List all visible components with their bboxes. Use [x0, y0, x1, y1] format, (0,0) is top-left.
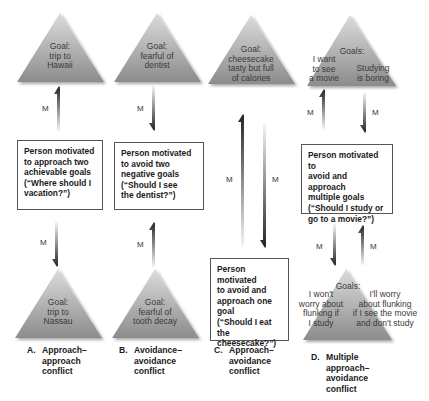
- box-line: vacation?”): [24, 188, 96, 199]
- arrow-down-icon: [149, 86, 155, 131]
- caption-c: C. Approach– avoidance conflict: [214, 345, 294, 385]
- caption-letter: C.: [214, 345, 223, 356]
- motivation-label: M: [226, 175, 233, 184]
- goal-text: and don't study: [346, 319, 424, 329]
- goal-text: Hawaii: [36, 61, 84, 71]
- arrow-down-icon: [360, 93, 366, 133]
- motivation-label: M: [272, 175, 279, 184]
- goal-text: tooth decay: [125, 317, 185, 327]
- goal-triangle-flunking: Goals: I won't worry about flunking if I…: [302, 268, 396, 342]
- caption-line: avoidance: [229, 356, 274, 367]
- box-line: to approach two: [24, 157, 96, 168]
- caption-line: Avoidance–: [134, 345, 182, 356]
- box-line: approach one: [217, 296, 282, 307]
- motivation-label: M: [370, 242, 377, 251]
- conflict-description-box-a: Person motivated to approach two achieva…: [17, 140, 103, 210]
- goal-text: dentist: [131, 61, 183, 71]
- caption-letter: D.: [311, 352, 320, 363]
- caption-line: Multiple: [326, 352, 369, 363]
- caption-d: D. Multiple approach– avoidance conflict: [311, 352, 391, 400]
- box-line: (“Should I study or: [308, 203, 386, 214]
- goal-triangle-dentist: Goal: fearful of dentist: [113, 12, 203, 84]
- motivation-label: M: [316, 242, 323, 251]
- goal-triangle-cheesecake: Goal: cheesecake tasty but full of calor…: [207, 14, 297, 86]
- caption-line: approach: [42, 356, 87, 367]
- goal-text: Nassau: [34, 317, 82, 327]
- arrow-up-icon: [319, 89, 325, 129]
- caption-a: A. Approach– approach conflict: [27, 345, 107, 385]
- caption-b: B. Avoidance– avoidance conflict: [119, 345, 204, 385]
- goal-text: is boring: [350, 74, 396, 84]
- caption-line: Approach–: [42, 345, 87, 356]
- arrow-down-icon: [330, 224, 336, 266]
- goal-triangle-tooth-decay: Goal: fearful of tooth decay: [111, 268, 201, 340]
- arrow-down-icon: [260, 124, 266, 248]
- box-line: Person motivated: [24, 146, 96, 157]
- motivation-label: M: [40, 238, 47, 247]
- goal-triangle-movie-studying: Goals: I want to see a movie Studying is…: [306, 14, 400, 88]
- caption-line: avoidance: [326, 373, 369, 384]
- box-line: go to a movie?”): [308, 214, 386, 225]
- goal-text: a movie: [302, 74, 346, 84]
- box-line: Person motivated to: [308, 150, 386, 171]
- arrow-up-icon: [358, 225, 364, 265]
- motivation-label: M: [372, 108, 379, 117]
- arrow-up-icon: [238, 114, 244, 246]
- motivation-label: M: [42, 104, 49, 113]
- box-line: negative goals: [121, 169, 197, 180]
- arrow-up-icon: [54, 86, 60, 131]
- box-line: to avoid two: [121, 159, 197, 170]
- caption-line: conflict: [42, 366, 87, 377]
- goal-text: I study: [294, 319, 348, 329]
- conflict-description-box-b: Person motivated to avoid two negative g…: [114, 142, 204, 210]
- goal-text: of calories: [217, 74, 285, 84]
- box-line: Person motivated: [121, 148, 197, 159]
- conflict-description-box-c: Person motivated to avoid and approach o…: [210, 258, 289, 341]
- box-line: (“Should I eat the: [217, 317, 282, 338]
- motivation-label: M: [137, 240, 144, 249]
- box-line: (“Should I see: [121, 180, 197, 191]
- conflict-description-box-d: Person motivated to avoid and approach m…: [301, 144, 393, 214]
- caption-line: approach–: [326, 363, 369, 374]
- motivation-label: M: [137, 104, 144, 113]
- goal-triangle-nassau: Goal: trip to Nassau: [14, 268, 104, 340]
- caption-line: conflict: [134, 366, 182, 377]
- caption-letter: A.: [27, 345, 36, 356]
- caption-line: conflict: [326, 384, 369, 395]
- goal-triangle-hawaii: Goal: trip to Hawaii: [16, 12, 106, 84]
- box-line: (“Where should I: [24, 178, 96, 189]
- arrow-up-icon: [149, 222, 155, 267]
- motivation-label: M: [307, 108, 314, 117]
- caption-line: conflict: [229, 366, 274, 377]
- caption-letter: B.: [119, 345, 128, 356]
- box-line: Person motivated: [217, 264, 282, 285]
- caption-line: avoidance: [134, 356, 182, 367]
- box-line: multiple goals: [308, 192, 386, 203]
- arrow-down-icon: [52, 222, 58, 267]
- box-line: achievable goals: [24, 167, 96, 178]
- box-line: goal: [217, 306, 282, 317]
- box-line: to avoid and: [217, 285, 282, 296]
- box-line: avoid and approach: [308, 171, 386, 192]
- box-line: the dentist?”): [121, 190, 197, 201]
- caption-line: Approach–: [229, 345, 274, 356]
